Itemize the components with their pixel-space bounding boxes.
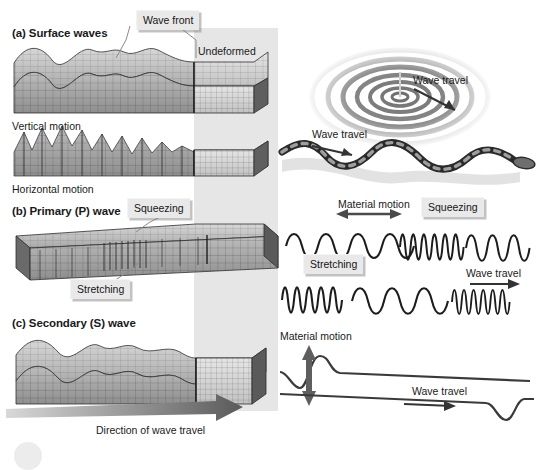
pulse-line-wave-travel: [280, 394, 534, 420]
pulse-material-motion-label: Material motion: [280, 331, 352, 342]
spring-wave-travel: [282, 287, 510, 314]
rope-wave-travel-label: Wave travel: [312, 129, 367, 140]
material-motion-arrow-horizontal: [336, 209, 402, 219]
ripples-wave-travel-label: Wave travel: [413, 75, 468, 86]
pulse-line-material-motion: [280, 345, 530, 406]
page-corner-circle: [14, 442, 42, 470]
callout-stretching-right: Stretching: [303, 254, 363, 274]
spring-wave-travel-label: Wave travel: [466, 268, 521, 279]
spring-wave-travel-arrow: [470, 279, 520, 289]
material-motion-label-spring: Material motion: [338, 199, 410, 210]
rope-transverse-wave: [282, 143, 536, 185]
pulse-wave-travel-label: Wave travel: [412, 386, 467, 397]
callout-squeezing-right: Squeezing: [421, 197, 484, 217]
